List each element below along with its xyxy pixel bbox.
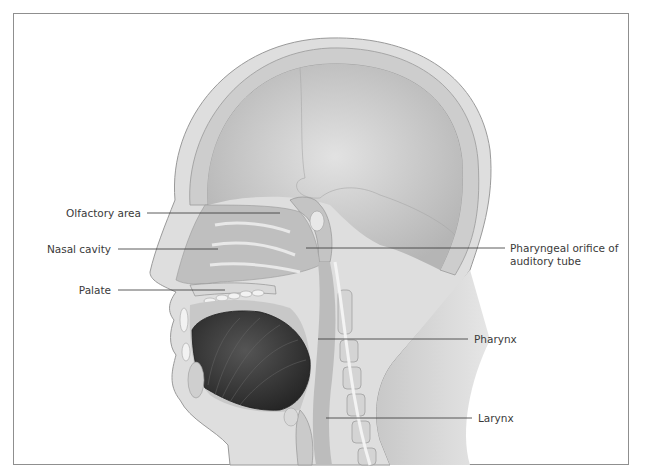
mandible [188, 362, 204, 398]
label-olfactory-area: Olfactory area [0, 207, 141, 220]
label-pharyngeal-orifice-line2: auditory tube [510, 255, 618, 268]
label-nasal-cavity: Nasal cavity [0, 243, 111, 256]
label-pharynx: Pharynx [474, 333, 517, 346]
head-section-illustration [0, 0, 645, 474]
label-palate: Palate [0, 284, 111, 297]
label-pharyngeal-orifice-line1: Pharyngeal orifice of [510, 242, 618, 255]
label-larynx: Larynx [478, 412, 514, 425]
label-pharyngeal-orifice: Pharyngeal orifice of auditory tube [510, 242, 618, 268]
